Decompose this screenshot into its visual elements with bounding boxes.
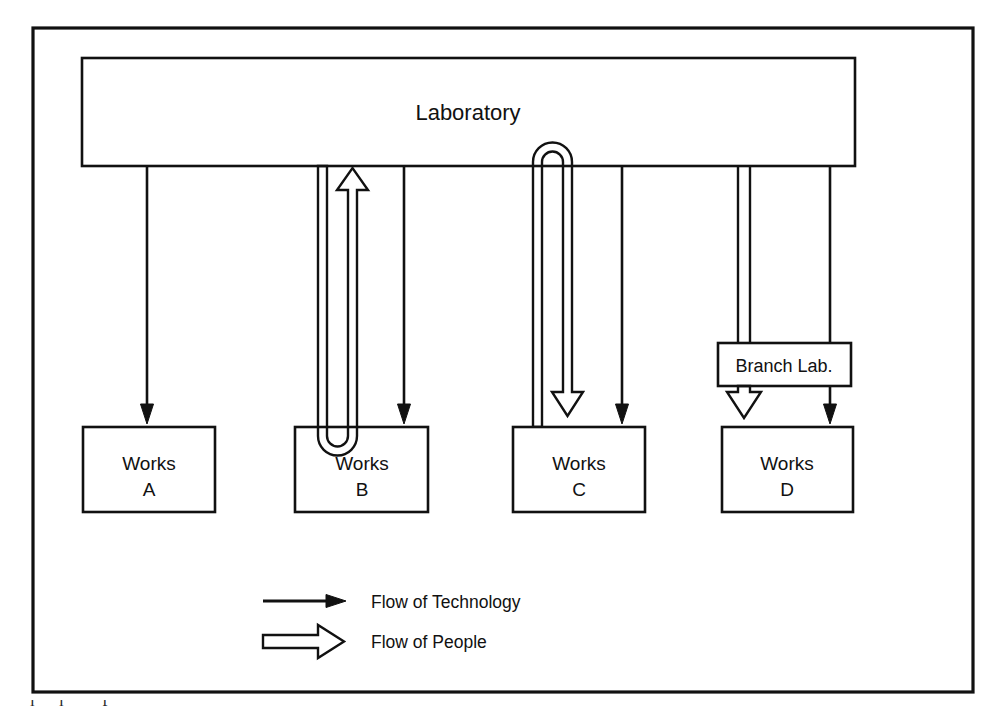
legend-people-arrow — [263, 625, 344, 658]
flow-lab-to-works-c-technology — [616, 166, 629, 424]
flow-diagram-svg: Laboratory — [0, 0, 1006, 727]
works-d-label-line2: D — [780, 479, 794, 500]
diagram-canvas: Laboratory — [0, 0, 1006, 727]
flow-works-b-to-lab-people — [318, 166, 368, 456]
flow-lab-to-works-b — [398, 166, 411, 424]
works-d-label-line1: Works — [760, 453, 813, 474]
flow-lab-to-branch-lab-people — [738, 166, 750, 343]
flow-lab-to-works-c-people — [533, 143, 583, 428]
flow-lab-to-works-a — [141, 166, 154, 424]
branch-lab-label: Branch Lab. — [735, 356, 832, 376]
legend-item-technology — [263, 595, 346, 608]
works-a-label-line1: Works — [122, 453, 175, 474]
page-caption-text: l l f — [30, 700, 108, 711]
works-b-label-line1: Works — [335, 453, 388, 474]
page-caption-strip: l l f — [0, 700, 1006, 727]
works-b-label-line2: B — [356, 479, 369, 500]
flow-branch-lab-to-works-d-people — [727, 386, 761, 418]
legend-technology-label: Flow of Technology — [371, 592, 521, 612]
works-c-label-line2: C — [572, 479, 586, 500]
works-a-label-line2: A — [143, 479, 156, 500]
works-c-label-line1: Works — [552, 453, 605, 474]
legend-item-people — [263, 625, 344, 658]
legend-technology-arrowhead — [326, 595, 346, 608]
laboratory-label: Laboratory — [415, 100, 520, 125]
legend-people-label: Flow of People — [371, 632, 487, 652]
